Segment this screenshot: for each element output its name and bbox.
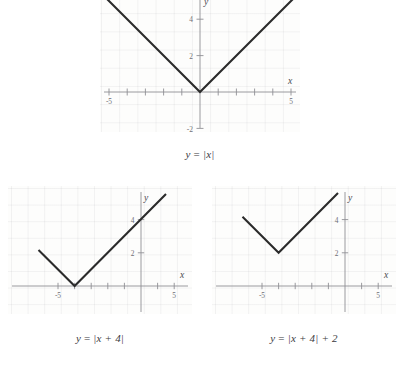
- y-axis-label: y: [143, 192, 149, 203]
- curve-abs-x-plus-4-plus-2: [243, 193, 339, 253]
- figure-abs-x-plus-4-plus-2: -5 5 2 4 -2 x y: [212, 186, 396, 314]
- caption-abs-x-plus-4: y = |x + 4|: [8, 332, 192, 344]
- chart-abs-x: -5 5 2 4 -2 x y: [100, 0, 300, 132]
- caption-rhs: |x + 4| + 2: [288, 332, 338, 344]
- caption-eq: =: [81, 332, 93, 344]
- x-axis-label: x: [287, 75, 293, 86]
- y-tick-label-4: 4: [335, 216, 339, 225]
- x-tick-label-5: 5: [376, 291, 380, 300]
- plot-area-abs-x: -5 5 2 4 -2 x y: [100, 0, 300, 132]
- y-tick-label-2: 2: [131, 249, 135, 258]
- plot-area-abs-x-plus-4-plus-2: -5 5 2 4 -2 x y: [212, 186, 396, 314]
- y-axis-label: y: [203, 0, 209, 7]
- caption-abs-x: y = |x|: [0, 148, 400, 160]
- caption-eq: =: [275, 332, 287, 344]
- x-tick-label-5: 5: [289, 97, 293, 106]
- y-tick-label-2: 2: [189, 52, 193, 61]
- caption-abs-x-plus-4-plus-2: y = |x + 4| + 2: [212, 332, 396, 344]
- x-tick-label-neg5: -5: [259, 291, 265, 300]
- y-tick-label-2: 2: [335, 249, 339, 258]
- y-tick-label-4: 4: [189, 15, 193, 24]
- caption-rhs: |x|: [203, 148, 215, 160]
- figure-abs-x: -5 5 2 4 -2 x y: [100, 0, 300, 132]
- x-tick-label-neg5: -5: [106, 97, 112, 106]
- chart-abs-x-plus-4-plus-2: -5 5 2 4 -2 x y: [212, 186, 396, 314]
- x-tick-label-5: 5: [172, 291, 176, 300]
- caption-rhs: |x + 4|: [93, 332, 124, 344]
- chart-abs-x-plus-4: -5 5 2 4 -2 x y: [8, 186, 192, 314]
- y-tick-label-4: 4: [131, 216, 135, 225]
- x-tick-label-neg5: -5: [55, 291, 61, 300]
- x-axis-label: x: [179, 269, 185, 280]
- figure-abs-x-plus-4: -5 5 2 4 -2 x y: [8, 186, 192, 314]
- plot-area-abs-x-plus-4: -5 5 2 4 -2 x y: [8, 186, 192, 314]
- x-axis-label: x: [383, 269, 389, 280]
- caption-eq: =: [191, 148, 203, 160]
- y-tick-label-neg2: -2: [187, 125, 193, 133]
- curve-abs-x-plus-4: [39, 194, 167, 286]
- y-axis-label: y: [347, 192, 353, 203]
